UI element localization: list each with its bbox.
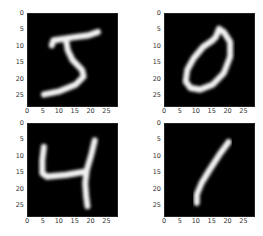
image-plot: [164, 13, 255, 107]
x-tick-label: 20: [85, 218, 97, 225]
y-tick-label: 10: [14, 153, 24, 160]
digit-stroke: [42, 140, 94, 206]
y-tick-label: 0: [14, 120, 24, 127]
x-tick-label: 10: [190, 108, 202, 115]
y-tick-label: 20: [151, 76, 161, 83]
y-tick-label: 10: [14, 43, 24, 50]
x-tick-label: 20: [222, 108, 234, 115]
image-plot: [27, 13, 118, 107]
y-tick-label: 25: [151, 92, 161, 99]
x-tick-label: 10: [53, 108, 65, 115]
y-tick-label: 15: [14, 59, 24, 66]
y-tick-label: 20: [14, 76, 24, 83]
x-tick-label: 10: [53, 218, 65, 225]
y-tick-label: 15: [151, 169, 161, 176]
x-tick-label: 0: [158, 218, 170, 225]
x-tick-label: 25: [237, 218, 249, 225]
y-tick-label: 20: [151, 186, 161, 193]
y-tick-label: 25: [151, 202, 161, 209]
y-tick-label: 10: [151, 153, 161, 160]
x-tick-label: 20: [222, 218, 234, 225]
x-tick-label: 0: [158, 108, 170, 115]
x-tick-label: 5: [174, 108, 186, 115]
digit-stroke: [44, 32, 98, 94]
x-tick-label: 0: [21, 108, 33, 115]
y-tick-label: 0: [151, 120, 161, 127]
y-tick-label: 15: [151, 59, 161, 66]
y-tick-label: 25: [14, 92, 24, 99]
x-tick-label: 15: [69, 108, 81, 115]
x-tick-label: 15: [206, 218, 218, 225]
y-tick-label: 5: [151, 136, 161, 143]
y-tick-label: 0: [151, 10, 161, 17]
y-tick-label: 0: [14, 10, 24, 17]
digit-stroke: [186, 29, 230, 90]
x-tick-label: 5: [37, 108, 49, 115]
y-tick-label: 20: [14, 186, 24, 193]
x-tick-label: 10: [190, 218, 202, 225]
x-tick-label: 25: [237, 108, 249, 115]
y-tick-label: 5: [14, 136, 24, 143]
x-tick-label: 0: [21, 218, 33, 225]
x-tick-label: 5: [174, 218, 186, 225]
y-tick-label: 5: [151, 26, 161, 33]
x-tick-label: 15: [69, 218, 81, 225]
x-tick-label: 5: [37, 218, 49, 225]
x-tick-label: 15: [206, 108, 218, 115]
y-tick-label: 10: [151, 43, 161, 50]
y-tick-label: 5: [14, 26, 24, 33]
digit-stroke: [197, 142, 229, 203]
x-tick-label: 25: [100, 108, 112, 115]
x-tick-label: 20: [85, 108, 97, 115]
image-plot: [164, 123, 255, 217]
image-plot: [27, 123, 118, 217]
x-tick-label: 25: [100, 218, 112, 225]
y-tick-label: 15: [14, 169, 24, 176]
y-tick-label: 25: [14, 202, 24, 209]
